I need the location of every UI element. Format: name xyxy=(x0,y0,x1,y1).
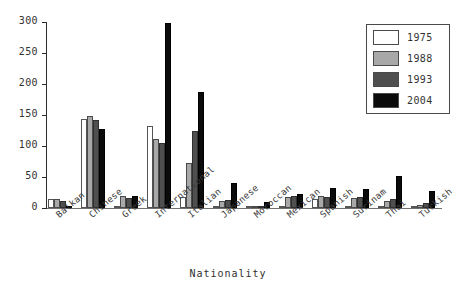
y-axis-tick-label: 50 xyxy=(0,170,38,181)
bar-group xyxy=(147,22,171,208)
legend-label: 1988 xyxy=(407,53,433,64)
bar-group xyxy=(81,22,105,208)
bar-group xyxy=(345,22,369,208)
bar[interactable] xyxy=(165,23,171,208)
legend-swatch xyxy=(373,51,399,66)
bar-group xyxy=(213,22,237,208)
y-axis-tick-label: 300 xyxy=(0,15,38,26)
legend: 1975198819932004 xyxy=(366,24,450,114)
x-axis-title: Nationality xyxy=(0,268,456,279)
y-axis-tick-mark xyxy=(42,208,47,209)
bar[interactable] xyxy=(99,129,105,208)
bar-group xyxy=(114,22,138,208)
y-axis-tick-label: 250 xyxy=(0,46,38,57)
legend-swatch xyxy=(373,93,399,108)
y-axis-tick-label: 100 xyxy=(0,139,38,150)
y-axis-tick-label: 0 xyxy=(0,201,38,212)
y-axis-tick-label: 150 xyxy=(0,108,38,119)
bar[interactable] xyxy=(198,92,204,208)
y-axis-tick-label: 200 xyxy=(0,77,38,88)
bar-group xyxy=(312,22,336,208)
legend-swatch xyxy=(373,72,399,87)
chart-canvas: 050100150200250300 BalkanChineseGreekInt… xyxy=(0,0,456,297)
bar-group xyxy=(48,22,72,208)
legend-label: 2004 xyxy=(407,95,433,106)
legend-label: 1975 xyxy=(407,32,433,43)
legend-label: 1993 xyxy=(407,74,433,85)
legend-swatch xyxy=(373,30,399,45)
bar-group xyxy=(246,22,270,208)
bar-group xyxy=(279,22,303,208)
